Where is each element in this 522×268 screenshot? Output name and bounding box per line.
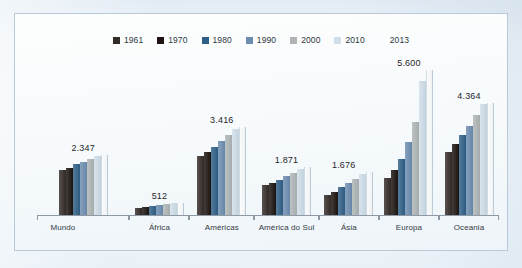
legend-swatch-icon <box>334 37 341 44</box>
bar-europa-1980 <box>398 159 405 216</box>
legend-item-2010: 2010 <box>334 36 364 45</box>
bar-mundo-1970 <box>66 168 73 216</box>
x-axis-label-áfrica: África <box>149 223 170 232</box>
bar-ásia-1980 <box>338 187 345 216</box>
bar-américas-1961 <box>197 156 204 216</box>
bar-stack <box>324 60 373 216</box>
x-axis-label-europa: Europa <box>396 223 422 232</box>
bar-mundo-1980 <box>73 164 80 216</box>
bar-europa-1961 <box>384 178 391 216</box>
legend-item-1961: 1961 <box>113 36 143 45</box>
x-axis-label-américas: Américas <box>205 223 239 232</box>
legend-swatch-icon <box>157 37 164 44</box>
bar-mundo-1990 <box>80 162 87 216</box>
bar-chart-figure: 1961197019801990200020102013 2.347Mundo5… <box>14 13 508 251</box>
bar-oceania-1970 <box>452 144 459 216</box>
bar-stack <box>262 60 311 216</box>
bar-europa-2013 <box>426 70 433 216</box>
bar-stack <box>59 60 108 216</box>
legend-label: 2010 <box>345 36 364 45</box>
bar-américas-2010 <box>232 129 239 216</box>
x-axis-label-américa-do-sul: América do Sul <box>259 223 315 232</box>
legend-item-1980: 1980 <box>202 36 232 45</box>
bar-oceania-1990 <box>466 126 473 216</box>
x-axis-label-mundo: Mundo <box>50 223 75 232</box>
bar-américa-do-sul-2000 <box>290 173 297 216</box>
bar-américa-do-sul-1980 <box>276 180 283 216</box>
bar-américas-2000 <box>225 135 232 216</box>
bar-ásia-1990 <box>345 183 352 216</box>
bar-oceania-1961 <box>445 152 452 216</box>
legend-swatch-icon <box>113 37 120 44</box>
bar-stack <box>445 60 494 216</box>
bar-américas-1970 <box>204 152 211 216</box>
legend-swatch-icon <box>379 37 386 44</box>
x-axis-label-oceania: Oceania <box>454 223 485 232</box>
bar-américas-2013 <box>239 127 246 216</box>
legend-swatch-icon <box>246 37 253 44</box>
plot-area: 2.347Mundo512África3.416Américas1.871Amé… <box>37 60 499 216</box>
bar-américa-do-sul-1990 <box>283 176 290 216</box>
bar-américa-do-sul-1970 <box>269 183 276 216</box>
data-label-américas: 3.416 <box>210 115 234 125</box>
legend-item-1990: 1990 <box>246 36 276 45</box>
bar-mundo-2000 <box>87 159 94 216</box>
bar-oceania-2010 <box>480 104 487 216</box>
bar-group-mundo: 2.347Mundo <box>37 60 129 216</box>
bar-ásia-2010 <box>359 174 366 216</box>
bar-stack <box>384 60 433 216</box>
bar-ásia-2000 <box>352 179 359 216</box>
bar-áfrica-2013 <box>177 203 184 216</box>
legend-label: 1990 <box>257 36 276 45</box>
x-axis-label-ásia: Ásia <box>341 223 357 232</box>
bar-group-américas: 3.416Américas <box>189 60 254 216</box>
bar-ásia-1961 <box>324 195 331 216</box>
bar-oceania-2000 <box>473 115 480 216</box>
data-label-ásia: 1.676 <box>332 160 356 170</box>
legend-swatch-icon <box>202 37 209 44</box>
data-label-europa: 5.600 <box>397 58 421 68</box>
bar-oceania-1980 <box>459 135 466 216</box>
legend-label: 1980 <box>213 36 232 45</box>
bar-groups: 2.347Mundo512África3.416Américas1.871Amé… <box>37 60 499 216</box>
bar-ásia-1970 <box>331 192 338 216</box>
legend-item-2000: 2000 <box>290 36 320 45</box>
legend-label: 1970 <box>168 36 187 45</box>
legend-item-2013: 2013 <box>379 36 409 45</box>
data-label-américa-do-sul: 1.871 <box>275 155 299 165</box>
data-label-mundo: 2.347 <box>71 143 95 153</box>
bar-europa-1990 <box>405 142 412 216</box>
legend-item-1970: 1970 <box>157 36 187 45</box>
legend-label: 2000 <box>301 36 320 45</box>
bar-stack <box>197 60 246 216</box>
bar-europa-1970 <box>391 170 398 216</box>
bar-américa-do-sul-1961 <box>262 185 269 216</box>
legend-label: 2013 <box>390 36 409 45</box>
bar-mundo-1961 <box>59 170 66 216</box>
bar-group-américa-do-sul: 1.871América do Sul <box>254 60 319 216</box>
data-label-oceania: 4.364 <box>457 91 481 101</box>
legend-swatch-icon <box>290 37 297 44</box>
bar-ásia-2013 <box>366 172 373 216</box>
chart-legend: 1961197019801990200020102013 <box>15 36 507 45</box>
legend-label: 1961 <box>124 36 143 45</box>
bar-group-ásia: 1.676Ásia <box>319 60 379 216</box>
bar-mundo-2013 <box>101 155 108 216</box>
bar-group-áfrica: 512África <box>129 60 189 216</box>
bar-américa-do-sul-2013 <box>304 167 311 216</box>
data-label-áfrica: 512 <box>152 191 168 201</box>
bar-europa-2010 <box>419 81 426 216</box>
bar-group-oceania: 4.364Oceania <box>439 60 499 216</box>
bar-oceania-2013 <box>487 103 494 216</box>
bar-group-europa: 5.600Europa <box>379 60 439 216</box>
bar-europa-2000 <box>412 122 419 216</box>
bar-américa-do-sul-2010 <box>297 169 304 216</box>
bar-américas-1990 <box>218 141 225 216</box>
bar-américas-1980 <box>211 147 218 216</box>
x-axis-line <box>37 215 499 216</box>
bar-mundo-2010 <box>94 156 101 216</box>
